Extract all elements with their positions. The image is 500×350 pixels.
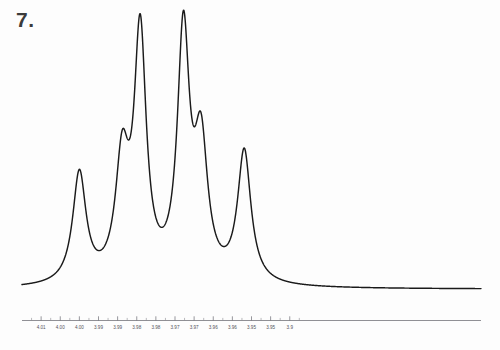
x-axis-tick-label: 3.95 xyxy=(266,325,275,330)
x-axis-tick-label: 3.97 xyxy=(171,325,180,330)
x-axis-tick-label: 4.00 xyxy=(75,325,84,330)
figure-panel: 7. 4.014.004.003.993.993.983.983.973.973… xyxy=(0,0,500,350)
x-axis-tick-label: 3.96 xyxy=(228,325,237,330)
x-axis-tick-label: 3.98 xyxy=(151,325,160,330)
x-axis-tick-label: 3.9 xyxy=(287,325,294,330)
x-axis-tick-label: 3.97 xyxy=(190,325,199,330)
nmr-spectrum-plot: 4.014.004.003.993.993.983.983.973.973.96… xyxy=(0,0,500,350)
x-axis-tick-labels: 4.014.004.003.993.993.983.983.973.973.96… xyxy=(37,325,294,330)
x-axis: 4.014.004.003.993.993.983.983.973.973.96… xyxy=(22,316,481,329)
x-axis-ticks xyxy=(32,316,300,320)
x-axis-tick-label: 3.95 xyxy=(247,325,256,330)
spectrum-trace xyxy=(22,10,481,288)
spectrum-trace-group xyxy=(22,10,481,288)
x-axis-tick-label: 3.96 xyxy=(209,325,218,330)
x-axis-tick-label: 3.99 xyxy=(113,325,122,330)
x-axis-tick-label: 3.98 xyxy=(132,325,141,330)
x-axis-tick-label: 4.00 xyxy=(56,325,65,330)
x-axis-tick-label: 4.01 xyxy=(37,325,46,330)
x-axis-tick-label: 3.99 xyxy=(94,325,103,330)
